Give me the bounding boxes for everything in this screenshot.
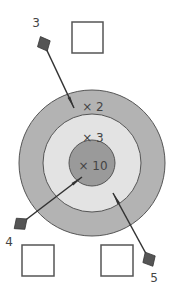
- answer-box-top[interactable]: [72, 22, 103, 53]
- ring-label-middle: × 3: [82, 131, 104, 145]
- dart-flight: [14, 218, 27, 229]
- dart-3: 3: [32, 16, 74, 108]
- ring-label-inner: × 10: [78, 159, 107, 173]
- ring-label-outer: × 2: [82, 100, 104, 114]
- dartboard-diagram: × 2× 3× 10 345: [0, 0, 180, 300]
- dart-number-label: 4: [5, 235, 13, 249]
- answer-box-bottom-left[interactable]: [22, 245, 54, 276]
- ring-labels: × 2× 3× 10: [78, 100, 107, 173]
- answer-box-bottom-right[interactable]: [101, 245, 133, 276]
- dart-flight: [143, 252, 155, 266]
- dart-number-label: 5: [150, 271, 158, 285]
- dart-flight: [38, 37, 51, 51]
- dart-number-label: 3: [32, 16, 40, 30]
